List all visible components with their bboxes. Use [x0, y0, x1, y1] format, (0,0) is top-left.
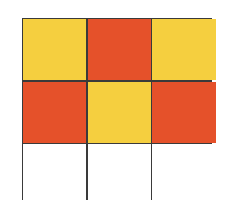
color-grid	[22, 18, 212, 200]
grid-cell-r1-c2	[88, 19, 151, 80]
grid-cell-r3-c3	[152, 144, 216, 204]
grid-cell-r2-c2	[88, 82, 151, 143]
grid-cell-r3-c1	[23, 144, 86, 204]
grid-cell-r2-c3	[152, 82, 216, 143]
grid-cell-r3-c2	[88, 144, 151, 204]
grid-cell-r2-c1	[23, 82, 86, 143]
grid-cell-r1-c1	[23, 19, 86, 80]
canvas	[0, 0, 233, 208]
grid-cell-r1-c3	[152, 19, 216, 80]
